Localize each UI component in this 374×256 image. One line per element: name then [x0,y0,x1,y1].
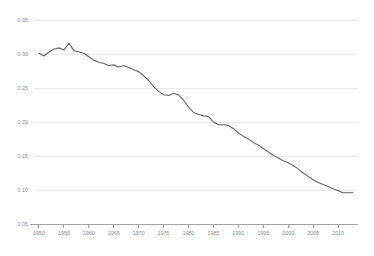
x-axis-tick-label: 1965 [108,230,120,236]
x-axis-tick-label: 1950 [33,230,45,236]
x-axis-tick-label: 1960 [83,230,95,236]
gridlines [34,20,358,190]
x-axis-tick-label: 2010 [332,230,344,236]
y-axis-tick-label: 0.05 [18,221,29,227]
x-axis-ticks [39,224,338,228]
x-axis-tick-label: 1995 [257,230,269,236]
y-axis-tick-label: 0.35 [18,17,29,23]
y-axis-tick-label: 0.30 [18,51,29,57]
x-axis-tick-label: 1980 [183,230,195,236]
y-axis-tick-labels: 0.050.100.150.200.250.300.35 [18,17,29,227]
x-axis-tick-label: 1990 [232,230,244,236]
x-axis-tick-label: 1955 [58,230,70,236]
x-axis-tick-label: 2000 [282,230,294,236]
line-chart: 0.050.100.150.200.250.300.35 19501955196… [0,0,374,256]
y-axis-tick-label: 0.20 [18,119,29,125]
x-axis-tick-label: 1975 [158,230,170,236]
y-axis-tick-label: 0.15 [18,153,29,159]
x-axis-tick-label: 1970 [133,230,145,236]
chart-canvas: 0.050.100.150.200.250.300.35 19501955196… [0,0,374,256]
x-axis-tick-label: 2005 [307,230,319,236]
data-series [39,43,353,193]
series-line [39,43,353,193]
x-axis-tick-label: 1985 [207,230,219,236]
y-axis-tick-label: 0.25 [18,85,29,91]
x-axis-tick-labels: 1950195519601965197019751980198519901995… [33,230,344,236]
y-axis-tick-label: 0.10 [18,187,29,193]
